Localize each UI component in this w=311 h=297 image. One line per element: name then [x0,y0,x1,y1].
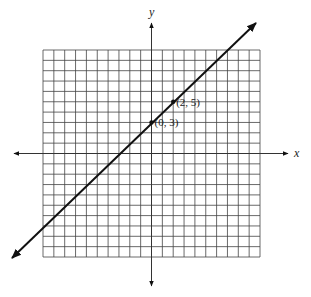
point-marker [149,120,153,124]
point-marker [171,100,175,104]
point-label: (2, 5) [176,96,200,109]
point-label: (0, 3) [155,116,179,129]
line-y-equals-x-plus-3 [12,23,256,258]
coordinate-plane: x y (0, 3)(2, 5) [0,0,311,297]
x-axis-label: x [293,146,300,160]
y-axis-label: y [148,5,155,19]
